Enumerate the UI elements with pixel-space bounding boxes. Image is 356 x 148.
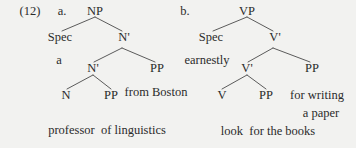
- tree-a-node-n: N: [61, 89, 70, 102]
- tree-b-node-spec: Spec: [199, 31, 223, 44]
- tree-a-item-letter: a.: [58, 5, 67, 18]
- tree-b-node-v-bar-lower: V': [241, 62, 252, 75]
- tree-b-terminal-spec: earnestly: [184, 54, 229, 67]
- example-number: (12): [20, 5, 41, 18]
- tree-b-node-pp-complement: PP: [259, 89, 273, 102]
- tree-b-baseline-text: look for the books: [221, 125, 315, 138]
- tree-a-node-n-bar-lower: N': [87, 62, 98, 75]
- tree-b-adjunct-text-line2: a paper: [303, 107, 339, 120]
- tree-b-node-v: V: [217, 89, 226, 102]
- tree-a-node-n-bar-upper: N': [118, 31, 129, 44]
- tree-a-node-pp-complement: PP: [104, 89, 118, 102]
- tree-b-item-letter: b.: [180, 5, 189, 18]
- tree-a-node-np: NP: [87, 5, 103, 18]
- tree-b-adjunct-text-line1: for writing: [290, 89, 344, 102]
- tree-b-node-vp: VP: [239, 5, 255, 18]
- tree-a-baseline-text: professor of linguistics: [48, 124, 166, 137]
- tree-a-node-pp-adjunct: PP: [150, 62, 164, 75]
- tree-b-node-v-bar-upper: V': [269, 31, 280, 44]
- tree-b-node-pp-adjunct: PP: [305, 62, 319, 75]
- syntax-tree-figure: (12) a. NP Spec N' a N' PP N PP from Bos…: [0, 0, 356, 148]
- tree-a-terminal-spec: a: [56, 54, 62, 67]
- tree-a-node-spec: Spec: [48, 31, 72, 44]
- tree-a-adjunct-text: from Boston: [125, 86, 188, 99]
